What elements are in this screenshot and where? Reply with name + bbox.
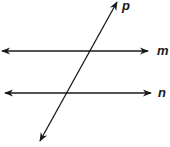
line-p-transversal xyxy=(40,2,117,141)
lines-svg xyxy=(0,0,170,147)
diagram-canvas: p m n xyxy=(0,0,170,147)
label-p: p xyxy=(122,0,130,12)
label-n: n xyxy=(158,86,166,99)
label-m: m xyxy=(157,44,169,57)
